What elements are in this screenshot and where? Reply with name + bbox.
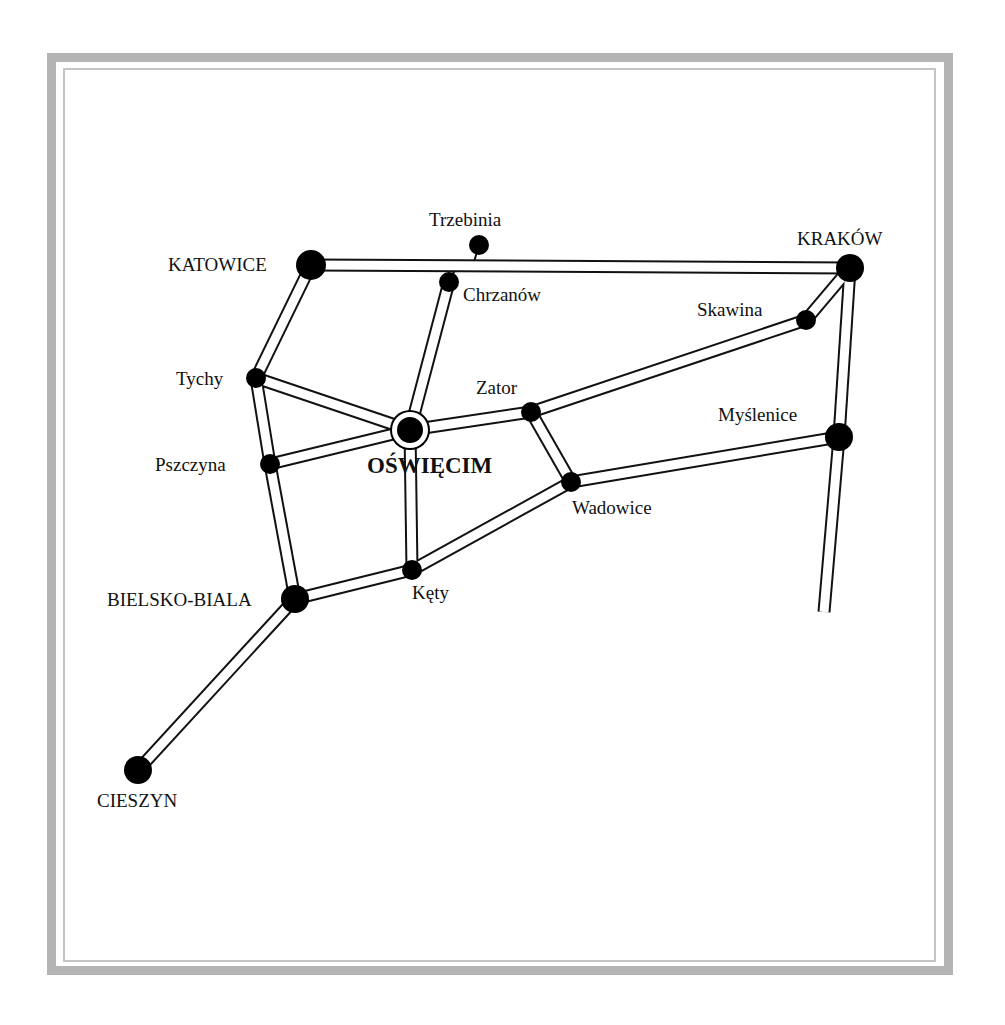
city-label-chrzanow: Chrzanów <box>463 284 541 305</box>
city-label-kety: Kęty <box>412 582 449 603</box>
city-marker-icon <box>296 250 326 280</box>
city-label-katowice: KATOWICE <box>168 254 267 275</box>
road-map: KATOWICETrzebiniaChrzanówKRAKÓWSkawinaTy… <box>0 0 1005 1025</box>
city-chrzanow[interactable] <box>439 272 459 292</box>
road-fill-katowice-krakow <box>311 265 850 268</box>
city-krakow[interactable] <box>836 254 864 282</box>
road-fill-tychy-oswiecim <box>256 378 410 430</box>
city-kety[interactable] <box>402 560 422 580</box>
city-myslenice[interactable] <box>825 423 853 451</box>
city-cieszyn[interactable] <box>124 756 152 784</box>
city-label-zator: Zator <box>476 377 518 398</box>
city-zator[interactable] <box>521 402 541 422</box>
city-marker-icon <box>246 368 266 388</box>
road-fill-oswiecim-kety <box>410 430 412 570</box>
city-marker-icon <box>402 560 422 580</box>
road-fill-wadowice-kety <box>412 482 571 570</box>
city-label-bielsko: BIELSKO-BIALA <box>107 589 252 610</box>
city-skawina[interactable] <box>796 310 816 330</box>
city-katowice[interactable] <box>296 250 326 280</box>
city-marker-icon <box>825 423 853 451</box>
city-label-myslenice: Myślenice <box>718 404 797 425</box>
city-marker-icon <box>260 454 280 474</box>
road-fill-kety-bielsko <box>295 570 412 599</box>
road-fill-wadowice-myslenice <box>571 437 839 482</box>
city-marker-icon <box>796 310 816 330</box>
city-marker-icon <box>469 235 489 255</box>
city-labels-layer: KATOWICETrzebiniaChrzanówKRAKÓWSkawinaTy… <box>97 209 883 811</box>
city-label-trzebinia: Trzebinia <box>429 209 502 230</box>
city-pszczyna[interactable] <box>260 454 280 474</box>
city-label-krakow: KRAKÓW <box>797 228 883 249</box>
road-fill-chrzanow-oswiecim <box>410 282 449 430</box>
city-marker-icon <box>397 417 423 443</box>
city-marker-icon <box>561 472 581 492</box>
road-fill-krakow-myslenice <box>839 268 850 437</box>
road-fill-katowice-tychy <box>256 265 311 378</box>
city-bielsko[interactable] <box>281 585 309 613</box>
city-label-wadowice: Wadowice <box>572 497 652 518</box>
city-marker-icon <box>521 402 541 422</box>
city-label-pszczyna: Pszczyna <box>155 454 226 475</box>
city-label-skawina: Skawina <box>697 299 763 320</box>
city-label-cieszyn: CIESZYN <box>97 790 178 811</box>
city-marker-icon <box>124 756 152 784</box>
city-wadowice[interactable] <box>561 472 581 492</box>
roads-outline-layer <box>138 245 850 770</box>
city-marker-icon <box>439 272 459 292</box>
city-label-tychy: Tychy <box>176 368 224 389</box>
city-trzebinia[interactable] <box>469 235 489 255</box>
city-label-oswiecim: OŚWIĘCIM <box>367 452 493 478</box>
road-fill-bielsko-cieszyn <box>138 599 295 770</box>
city-tychy[interactable] <box>246 368 266 388</box>
road-fill-zator-skawina <box>531 320 806 412</box>
road-fill-pszczyna-bielsko <box>270 464 295 599</box>
road-fill-zator-wadowice <box>531 412 571 482</box>
city-oswiecim[interactable] <box>390 410 430 450</box>
city-marker-icon <box>836 254 864 282</box>
city-marker-icon <box>281 585 309 613</box>
